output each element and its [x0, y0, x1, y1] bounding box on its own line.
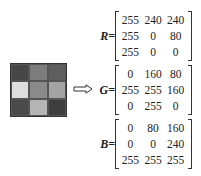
matrix-cell: 255: [164, 152, 187, 168]
matrix-cell: 0: [142, 136, 165, 152]
matrix-cell: 0: [164, 44, 187, 60]
matrix-cell: 255: [119, 12, 142, 28]
matrix-row: 255 255 160: [119, 82, 187, 98]
matrix-cell: 0: [164, 98, 187, 114]
matrix-cell: 160: [164, 82, 187, 98]
matrix-cell: 240: [142, 12, 165, 28]
matrix-cell: 0: [142, 44, 165, 60]
pixel-cell: [29, 99, 47, 116]
pixel-cell: [48, 64, 66, 81]
matrix-cell: 240: [164, 12, 187, 28]
pixel-cell: [29, 81, 47, 98]
matrix-label: G=: [91, 83, 115, 98]
matrix-g: G= 0 160 80 255 255 160 0 255 0: [91, 64, 195, 116]
matrix-row: 255 240 240: [119, 12, 187, 28]
matrix-cell: 0: [119, 136, 142, 152]
pixel-grid-image: [10, 63, 67, 117]
matrix-cell: 80: [164, 28, 187, 44]
matrix-row: 0 160 80: [119, 66, 187, 82]
pixel-cell: [11, 81, 29, 98]
matrix-cell: 160: [142, 66, 165, 82]
matrix-cell: 255: [119, 44, 142, 60]
matrix-cell: 255: [119, 82, 142, 98]
matrix-r: R= 255 240 240 255 0 80 255 0 0: [91, 10, 195, 62]
right-bracket: [188, 119, 192, 169]
matrix-cell: 0: [119, 66, 142, 82]
pixel-cell: [48, 99, 66, 116]
right-bracket: [188, 65, 192, 115]
pixel-cell: [29, 64, 47, 81]
matrix-row: 0 80 160: [119, 120, 187, 136]
matrix-cell: 80: [142, 120, 165, 136]
matrix-row: 0 255 0: [119, 98, 187, 114]
matrix-b: B= 0 80 160 0 0 240 255 255 255: [91, 118, 195, 170]
matrix-row: 0 0 240: [119, 136, 187, 152]
matrix-cell: 255: [142, 98, 165, 114]
matrix-cell: 0: [119, 120, 142, 136]
pixel-cell: [11, 64, 29, 81]
matrix-cell: 240: [164, 136, 187, 152]
matrix-label: B=: [91, 137, 115, 152]
matrix-cell: 255: [142, 82, 165, 98]
matrix-label: R=: [91, 29, 115, 44]
matrix-cell: 0: [119, 98, 142, 114]
matrix-row: 255 255 255: [119, 152, 187, 168]
matrix-cell: 80: [164, 66, 187, 82]
double-right-arrow-icon: [73, 84, 93, 94]
pixel-cell: [48, 81, 66, 98]
matrix-row: 255 0 0: [119, 44, 187, 60]
matrix-cell: 255: [142, 152, 165, 168]
matrix-cell: 255: [119, 28, 142, 44]
pixel-cell: [11, 99, 29, 116]
matrix-cell: 160: [164, 120, 187, 136]
matrix-row: 255 0 80: [119, 28, 187, 44]
matrix-cell: 255: [119, 152, 142, 168]
right-bracket: [188, 11, 192, 61]
matrix-cell: 0: [142, 28, 165, 44]
